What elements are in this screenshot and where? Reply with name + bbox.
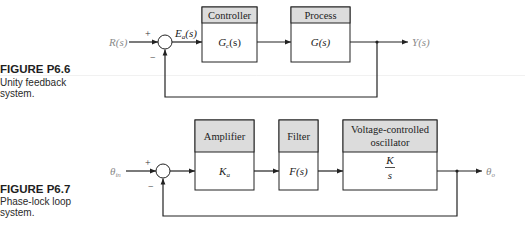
figure-label: FIGURE P6.6 bbox=[0, 63, 70, 75]
caption-line-1: Unity feedback bbox=[0, 77, 67, 88]
controller-transfer-function: Gc(s) bbox=[218, 36, 241, 50]
caption-line-1: Phase-lock loop bbox=[0, 196, 72, 207]
process-block: Process G(s) bbox=[291, 7, 350, 62]
figure-caption: FIGURE P6.7 Phase-lock loop system. bbox=[0, 183, 72, 218]
plus-sign: + bbox=[145, 157, 151, 168]
plus-sign: + bbox=[145, 28, 151, 39]
filter-block: Filter F(s) bbox=[279, 120, 318, 190]
figure-caption: FIGURE P6.6 Unity feedback system. bbox=[0, 63, 70, 99]
process-header: Process bbox=[304, 10, 336, 21]
amplifier-block: Amplifier Ka bbox=[195, 120, 254, 190]
filter-header: Filter bbox=[287, 131, 310, 142]
error-signal-label: Ea(s) bbox=[174, 27, 197, 41]
caption-line-2: system. bbox=[0, 88, 34, 99]
figure-p6-6: FIGURE P6.6 Unity feedback system. R(s) … bbox=[0, 7, 430, 99]
process-transfer-function: G(s) bbox=[311, 36, 331, 49]
output-signal-label: θo bbox=[486, 165, 495, 179]
summing-junction bbox=[158, 35, 172, 49]
figure-label: FIGURE P6.7 bbox=[0, 183, 70, 195]
summing-junction bbox=[156, 164, 170, 178]
input-signal-label: R(s) bbox=[108, 36, 128, 49]
minus-sign: − bbox=[150, 52, 156, 63]
vco-block: Voltage-controlled oscillator K s bbox=[343, 120, 437, 190]
controller-header: Controller bbox=[208, 10, 252, 21]
amplifier-header: Amplifier bbox=[204, 131, 246, 142]
caption-line-2: system. bbox=[0, 207, 34, 218]
figure-p6-7: FIGURE P6.7 Phase-lock loop system. θin … bbox=[0, 120, 495, 218]
vco-header-line-2: oscillator bbox=[370, 137, 410, 148]
output-signal-label: Y(s) bbox=[412, 36, 430, 49]
figure-page: FIGURE P6.6 Unity feedback system. R(s) … bbox=[0, 0, 525, 234]
vco-denominator: s bbox=[388, 169, 392, 181]
controller-block: Controller Gc(s) bbox=[202, 7, 257, 62]
filter-transfer-function: F(s) bbox=[288, 165, 308, 178]
minus-sign: − bbox=[148, 181, 154, 192]
input-signal-label: θin bbox=[110, 165, 121, 179]
vco-header-line-1: Voltage-controlled bbox=[351, 124, 430, 135]
vco-numerator: K bbox=[385, 154, 394, 166]
